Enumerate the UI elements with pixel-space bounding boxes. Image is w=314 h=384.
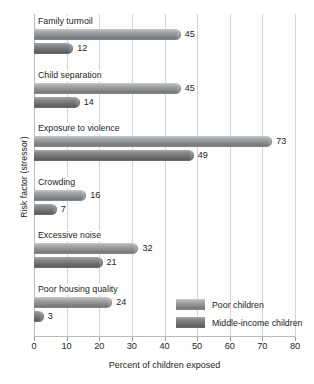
legend: Poor children Middle-income children — [176, 298, 314, 334]
legend-item-poor-children: Poor children — [176, 298, 314, 311]
category-label: Family turmoil — [37, 16, 95, 27]
legend-swatch-icon — [176, 299, 205, 310]
x-axis-tick-label: 10 — [62, 341, 72, 351]
bar — [34, 43, 73, 54]
bar — [34, 136, 272, 147]
bar-row: 45 — [34, 29, 295, 40]
x-axis-tick-labels: 01020304050607080 — [34, 341, 295, 353]
legend-swatch-icon — [176, 317, 205, 328]
bar — [34, 243, 138, 254]
x-axis-tick-label: 30 — [127, 341, 137, 351]
category-label: Child separation — [37, 70, 104, 81]
bar-value-label: 12 — [73, 43, 87, 54]
x-axis-title: Percent of children exposed — [34, 360, 295, 370]
category-label: Crowding — [37, 177, 77, 188]
x-axis-tick-label: 60 — [225, 341, 235, 351]
bar-value-label: 45 — [181, 83, 195, 94]
bar — [34, 190, 86, 201]
bar-row: 12 — [34, 43, 295, 54]
bar-row: 14 — [34, 97, 295, 108]
legend-label: Poor children — [212, 300, 264, 310]
y-axis-title: Risk factor (stressor) — [19, 107, 29, 247]
bar-row: 21 — [34, 257, 295, 268]
bar-value-label: 73 — [272, 136, 286, 147]
bar-row: 49 — [34, 150, 295, 161]
legend-item-middle-income-children: Middle-income children — [176, 316, 314, 329]
gridline — [230, 14, 231, 337]
x-axis-tick-label: 50 — [192, 341, 202, 351]
category-label: Excessive noise — [37, 230, 103, 241]
bar-row: 7 — [34, 204, 295, 215]
legend-label: Middle-income children — [212, 318, 302, 328]
category-label: Poor housing quality — [37, 284, 120, 295]
bar — [34, 97, 80, 108]
bar — [34, 257, 103, 268]
x-axis-tick-label: 0 — [31, 341, 36, 351]
bar-row: 73 — [34, 136, 295, 147]
bar-value-label: 24 — [112, 297, 126, 308]
gridline — [34, 14, 35, 337]
bar-value-label: 21 — [103, 257, 117, 268]
bar-chart: Risk factor (stressor) Family turmoil451… — [0, 0, 314, 384]
bar — [34, 150, 194, 161]
gridline — [165, 14, 166, 337]
gridline — [197, 14, 198, 337]
bar — [34, 297, 112, 308]
bar-value-label: 16 — [86, 190, 100, 201]
bar-row: 16 — [34, 190, 295, 201]
bar-value-label: 7 — [57, 204, 66, 215]
bar — [34, 311, 44, 322]
x-axis-tick-label: 40 — [159, 341, 169, 351]
bar-row: 45 — [34, 83, 295, 94]
plot-area: Family turmoil4512Child separation4514Ex… — [34, 14, 295, 337]
bar-value-label: 45 — [181, 29, 195, 40]
bar-value-label: 14 — [80, 97, 94, 108]
gridline — [295, 14, 296, 337]
gridline — [262, 14, 263, 337]
bar-value-label: 32 — [138, 243, 152, 254]
bar-value-label: 3 — [44, 311, 53, 322]
x-axis-tick-label: 20 — [94, 341, 104, 351]
gridline — [132, 14, 133, 337]
bar — [34, 83, 181, 94]
bar-value-label: 49 — [194, 150, 208, 161]
bar-row: 32 — [34, 243, 295, 254]
bar — [34, 29, 181, 40]
bar — [34, 204, 57, 215]
x-axis-tick-label: 70 — [257, 341, 267, 351]
x-axis-tick-label: 80 — [290, 341, 300, 351]
category-label: Exposure to violence — [37, 123, 122, 134]
